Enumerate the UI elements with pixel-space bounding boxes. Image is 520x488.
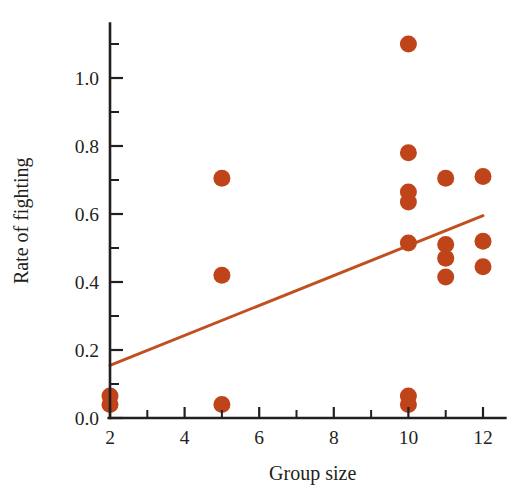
axes-group [109,24,506,418]
data-point [437,268,454,285]
data-point [213,267,230,284]
data-point [400,234,417,251]
y-axis-title: Rate of fighting [10,157,33,284]
y-tick-label: 0.4 [75,272,100,293]
data-point [400,194,417,211]
data-point [437,250,454,267]
plot-canvas: 0.00.20.40.60.81.024681012Group sizeRate… [0,0,520,488]
data-point [400,36,417,53]
data-points-group [102,36,492,413]
y-tick-label: 0.2 [75,340,99,361]
data-point [475,233,492,250]
data-point [475,168,492,185]
data-point [437,170,454,187]
y-tick-label: 0.0 [75,408,99,429]
x-tick-label: 12 [473,427,493,448]
regression-trend-line [110,216,483,366]
data-point [475,258,492,275]
y-tick-label: 1.0 [75,68,99,89]
trend-line-group [110,216,483,366]
y-tick-label: 0.8 [75,136,99,157]
data-point [213,170,230,187]
x-tick-label: 8 [329,427,339,448]
x-axis-title: Group size [269,462,356,485]
data-point [400,144,417,161]
scatter-plot-figure: 0.00.20.40.60.81.024681012Group sizeRate… [0,0,520,488]
x-tick-label: 2 [105,427,115,448]
x-tick-label: 4 [180,427,190,448]
x-tick-label: 6 [254,427,264,448]
axis-labels-group: 0.00.20.40.60.81.024681012Group sizeRate… [10,68,493,485]
x-tick-label: 10 [399,427,419,448]
y-tick-label: 0.6 [75,204,100,225]
